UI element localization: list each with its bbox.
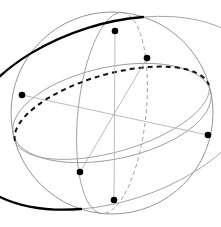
- sphere-diagram-figure: [0, 0, 221, 227]
- bold-meridian: [0, 16, 221, 209]
- axis-horizontal: [22, 95, 208, 135]
- axis-diagonal: [80, 58, 147, 172]
- center-axes: [22, 31, 208, 200]
- gray-upper-arc: [4, 47, 221, 179]
- axis-vertical: [114, 31, 115, 200]
- gray-meridian: [68, 9, 157, 217]
- vertex-upper-right: [144, 55, 151, 62]
- vertex-lower-left: [77, 169, 84, 176]
- vertex-right: [205, 132, 212, 139]
- vertex-bottom: [111, 197, 118, 204]
- vertex-left: [19, 92, 26, 99]
- sphere-outline: [11, 12, 213, 214]
- vertex-top: [112, 28, 119, 35]
- sphere-diagram-canvas: [0, 0, 221, 227]
- equator-ellipse: [15, 67, 210, 160]
